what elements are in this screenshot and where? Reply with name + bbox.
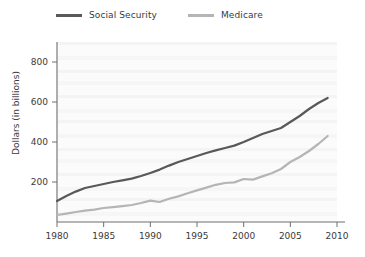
svg-text:2010: 2010 xyxy=(326,231,349,241)
chart-plot: 200400600800 198019851990199520002005201… xyxy=(0,0,365,257)
svg-text:400: 400 xyxy=(31,137,48,147)
chart-container: Social Security Medicare Dollars (in bil… xyxy=(0,0,365,257)
y-axis-ticks: 200400600800 xyxy=(31,57,57,187)
svg-text:1980: 1980 xyxy=(46,231,69,241)
svg-text:200: 200 xyxy=(31,177,48,187)
svg-text:1995: 1995 xyxy=(186,231,209,241)
svg-text:2000: 2000 xyxy=(232,231,255,241)
svg-text:2005: 2005 xyxy=(279,231,302,241)
svg-text:600: 600 xyxy=(31,97,48,107)
svg-text:1990: 1990 xyxy=(139,231,162,241)
svg-text:800: 800 xyxy=(31,57,48,67)
plot-background xyxy=(57,42,337,222)
svg-text:1985: 1985 xyxy=(92,231,115,241)
x-axis-ticks: 1980198519901995200020052010 xyxy=(46,222,349,241)
